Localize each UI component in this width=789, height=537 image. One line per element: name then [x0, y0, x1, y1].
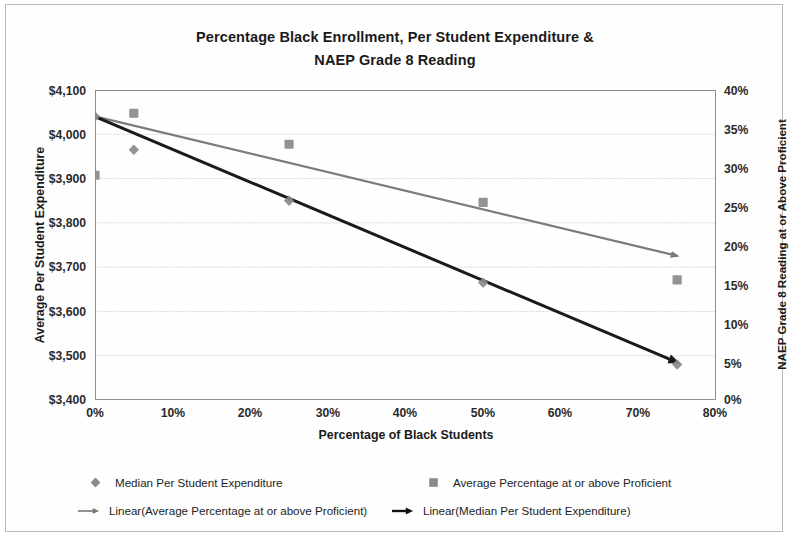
chart-title-line2: NAEP Grade 8 Reading	[120, 49, 670, 72]
y-left-tick-3400: $3,400	[26, 393, 86, 407]
legend-label-linear-avg-proficient: Linear(Average Percentage at or above Pr…	[109, 504, 367, 517]
y-right-tick-35: 35%	[724, 123, 774, 137]
x-tick-40: 40%	[383, 406, 427, 420]
x-tick-70: 70%	[616, 406, 660, 420]
y-right-tick-20: 20%	[724, 240, 774, 254]
chart-title: Percentage Black Enrollment, Per Student…	[120, 26, 670, 72]
plot-svg	[95, 90, 716, 400]
legend-label-median-expenditure: Median Per Student Expenditure	[115, 476, 283, 489]
gray-trendline-icon	[78, 506, 100, 516]
legend-entry-avg-proficient: Average Percentage at or above Proficien…	[422, 476, 671, 489]
x-tick-60: 60%	[538, 406, 582, 420]
x-tick-10: 10%	[151, 406, 195, 420]
y-left-tick-4100: $4,100	[26, 84, 86, 98]
y-right-tick-25: 25%	[724, 201, 774, 215]
y-left-tick-3900: $3,900	[26, 172, 86, 186]
y-axis-right-title: NAEP Grade 8 Reading at or Above Profici…	[775, 80, 788, 410]
axis-lines	[96, 91, 716, 400]
y-left-tick-4000: $4,000	[26, 128, 86, 142]
black-trendline-icon	[392, 506, 414, 516]
y-tick-marks	[95, 90, 716, 400]
diamond-marker-icon	[84, 477, 106, 488]
legend-entry-linear-avg-proficient: Linear(Average Percentage at or above Pr…	[78, 504, 367, 517]
chart-container: Percentage Black Enrollment, Per Student…	[0, 0, 789, 537]
y-left-tick-3800: $3,800	[26, 216, 86, 230]
y-right-tick-15: 15%	[724, 279, 774, 293]
y-left-tick-3600: $3,600	[26, 305, 86, 319]
trendlines	[95, 116, 677, 362]
x-tick-50: 50%	[461, 406, 505, 420]
legend-entry-linear-median-expenditure: Linear(Median Per Student Expenditure)	[392, 504, 631, 517]
x-tick-30: 30%	[306, 406, 350, 420]
legend-label-avg-proficient: Average Percentage at or above Proficien…	[453, 476, 671, 489]
y-left-tick-3500: $3,500	[26, 349, 86, 363]
y-right-tick-40: 40%	[724, 84, 774, 98]
y-right-tick-10: 10%	[724, 318, 774, 332]
gridlines	[95, 134, 716, 355]
x-tick-20: 20%	[228, 406, 272, 420]
legend-entry-median-expenditure: Median Per Student Expenditure	[84, 476, 283, 489]
plot-area	[95, 90, 716, 400]
legend-row-markers: Median Per Student Expenditure Average P…	[78, 476, 718, 498]
y-right-tick-5: 5%	[724, 357, 774, 371]
y-right-tick-0: 0%	[724, 393, 774, 407]
legend-label-linear-median-expenditure: Linear(Median Per Student Expenditure)	[423, 504, 631, 517]
y-left-tick-3700: $3,700	[26, 260, 86, 274]
square-marker-icon	[422, 477, 444, 488]
chart-title-line1: Percentage Black Enrollment, Per Student…	[120, 26, 670, 49]
chart-legend: Median Per Student Expenditure Average P…	[78, 476, 718, 526]
x-axis-title: Percentage of Black Students	[95, 428, 717, 442]
y-right-tick-30: 30%	[724, 162, 774, 176]
x-tick-0: 0%	[73, 406, 117, 420]
x-tick-80: 80%	[693, 406, 737, 420]
legend-row-trendlines: Linear(Average Percentage at or above Pr…	[78, 504, 718, 526]
